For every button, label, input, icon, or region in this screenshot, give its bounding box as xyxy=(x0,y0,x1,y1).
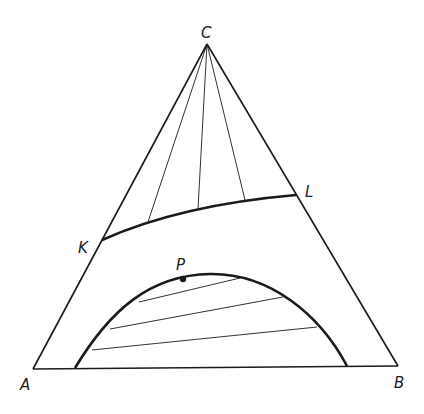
label-C: C xyxy=(201,24,212,42)
fan-tie-line xyxy=(207,44,245,200)
side-AB xyxy=(33,366,398,369)
label-K: K xyxy=(78,239,89,257)
side-AC xyxy=(33,44,207,369)
plait-point-P xyxy=(180,276,186,282)
side-BC xyxy=(207,44,398,366)
ternary-diagram: C A B K L P xyxy=(0,0,424,414)
fan-tie-line xyxy=(148,44,207,222)
curve-KL xyxy=(102,195,296,240)
label-A: A xyxy=(19,376,30,394)
label-L: L xyxy=(305,183,313,201)
label-B: B xyxy=(394,374,404,392)
binodal-tie-line xyxy=(110,297,283,329)
fan-tie-line xyxy=(198,44,207,209)
binodal-curve xyxy=(75,274,347,368)
label-P: P xyxy=(176,256,186,274)
binodal-tie-line xyxy=(92,327,317,350)
binodal-tie-line xyxy=(139,278,240,302)
